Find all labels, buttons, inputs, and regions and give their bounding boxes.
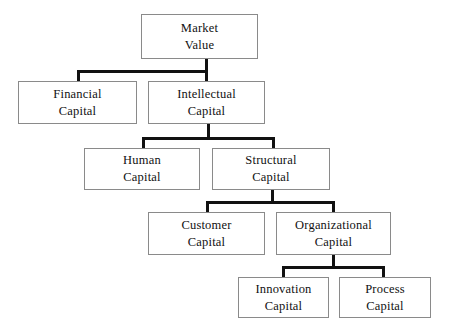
node-label-line2: Capital <box>123 169 161 186</box>
node-human-capital[interactable]: HumanCapital <box>84 148 200 190</box>
node-label-line2: Capital <box>366 298 404 315</box>
node-innovation-capital[interactable]: InnovationCapital <box>238 277 329 318</box>
node-label-line2: Capital <box>188 103 226 120</box>
node-label-line1: Customer <box>181 217 231 234</box>
node-process-capital[interactable]: ProcessCapital <box>339 277 431 318</box>
node-label-line2: Capital <box>188 234 226 251</box>
node-label-line2: Capital <box>315 234 353 251</box>
connector-ic-bar <box>142 137 275 140</box>
node-label-line1: Human <box>123 152 161 169</box>
connector-oc-bar <box>282 266 385 269</box>
node-organizational-capital[interactable]: OrganizationalCapital <box>276 212 391 255</box>
node-customer-capital[interactable]: CustomerCapital <box>148 212 265 255</box>
node-label-line1: Financial <box>53 86 101 103</box>
connector-ic-stem <box>207 124 210 138</box>
node-label-line2: Capital <box>265 298 303 315</box>
node-label-line1: Intellectual <box>177 86 236 103</box>
connector-mv-bar <box>77 70 208 73</box>
node-structural-capital[interactable]: StructuralCapital <box>212 148 330 190</box>
node-financial-capital[interactable]: FinancialCapital <box>18 81 137 124</box>
node-label-line2: Value <box>185 37 214 54</box>
diagram-canvas: MarketValueFinancialCapitalIntellectualC… <box>0 0 451 334</box>
node-label-line2: Capital <box>59 103 97 120</box>
node-label-line2: Capital <box>252 169 290 186</box>
node-label-line1: Innovation <box>255 281 311 298</box>
node-label-line1: Process <box>365 281 405 298</box>
node-label-line1: Organizational <box>295 217 372 234</box>
connector-sc-bar <box>206 201 335 204</box>
node-label-line1: Structural <box>245 152 296 169</box>
node-intellectual-capital[interactable]: IntellectualCapital <box>148 81 265 124</box>
node-label-line1: Market <box>181 20 218 37</box>
node-market-value[interactable]: MarketValue <box>141 14 258 59</box>
